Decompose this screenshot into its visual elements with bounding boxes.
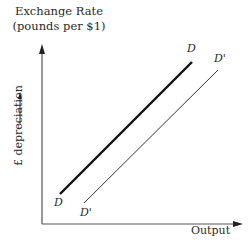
y-direction-label: £ depreciation [12, 85, 25, 166]
y-axis [39, 44, 45, 224]
label-D-low: D [54, 196, 63, 209]
label-D-high: D [187, 42, 196, 55]
label-D-prime-high: D' [214, 52, 226, 65]
diagram-canvas [0, 0, 251, 250]
x-axis-label: Output [191, 224, 230, 237]
label-D-prime-low: D' [80, 206, 92, 219]
curve-D-prime [84, 70, 218, 203]
curve-D [60, 62, 192, 194]
